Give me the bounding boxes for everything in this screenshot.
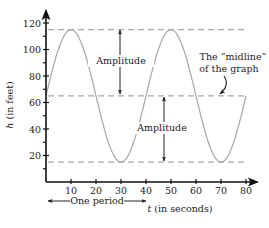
y-axis-label: h (in feet) [4,81,15,128]
y-tick-label: 80 [29,71,41,82]
x-tick-label: 70 [215,185,227,196]
y-tick-label: 60 [29,97,41,108]
x-tick-label: 50 [165,185,177,196]
sinusoid-chart: 20406080100120 1020304050607080 h (in fe… [0,0,269,228]
midline-annotation-line2: of the graph [199,63,258,74]
x-tick-label: 80 [240,185,252,196]
amplitude-label-top: Amplitude [95,55,146,66]
sine-curve [46,30,246,163]
x-axis-label: t (in seconds) [147,203,212,214]
y-tick-label: 100 [23,44,41,55]
y-tick-label: 40 [29,124,41,135]
x-tick-label: 40 [140,185,152,196]
x-tick-label: 60 [190,185,202,196]
midline-pointer-arrow [220,76,226,94]
amplitude-label-bottom: Amplitude [136,122,187,133]
y-tick-label: 120 [23,18,41,29]
midline-annotation-line1: The “midline” [200,51,267,62]
one-period-label: One period [70,195,124,206]
y-tick-label: 20 [29,150,41,161]
y-axis-ticks: 20406080100120 [23,18,49,169]
reference-lines [48,30,246,163]
